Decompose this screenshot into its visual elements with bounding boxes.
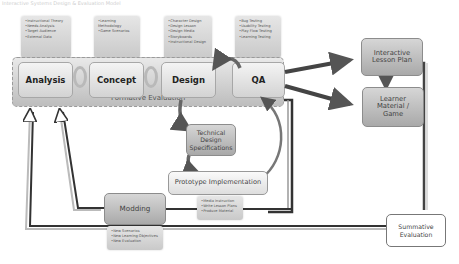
technical-design-box: Technical Design Specifications [186,124,236,156]
note-item: New Evaluation [111,239,159,244]
learner-material-box: Learner Material / Game [362,87,424,127]
lesson-plan-box: Interactive Lesson Plan [361,38,423,76]
modding-notes: New Scenarios New Learning Objectives Ne… [107,226,163,250]
modding-box: Modding [104,193,166,225]
summative-evaluation-box: Summative Evaluation [386,214,446,247]
prototype-box: Prototype Implementation [168,171,268,195]
prototype-notes: Media Instruction Write Lesson Plans Pro… [197,196,243,220]
note-item: Produce Material [201,209,239,214]
